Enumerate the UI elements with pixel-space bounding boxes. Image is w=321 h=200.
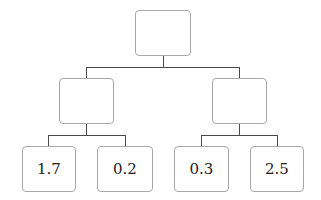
leaf-node: 0.3	[174, 146, 229, 192]
connector	[239, 67, 240, 78]
connector	[86, 67, 87, 78]
connector	[277, 135, 278, 146]
root-node	[135, 10, 191, 56]
level1-node-left	[59, 78, 114, 124]
leaf-node: 1.7	[22, 146, 76, 192]
connector	[86, 67, 240, 68]
connector	[48, 135, 126, 136]
connector	[201, 135, 278, 136]
connector	[239, 124, 240, 135]
connector	[125, 135, 126, 146]
connector	[48, 135, 49, 146]
level1-node-right	[212, 78, 267, 124]
connector	[163, 56, 164, 67]
leaf-node: 2.5	[250, 146, 304, 192]
connector	[201, 135, 202, 146]
connector	[86, 124, 87, 135]
leaf-node: 0.2	[97, 146, 153, 192]
